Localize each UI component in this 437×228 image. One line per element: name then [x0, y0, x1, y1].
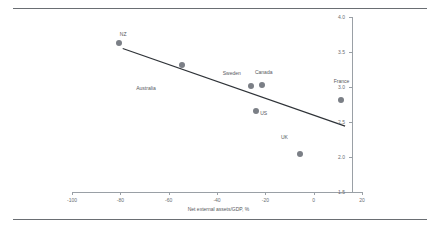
data-point [248, 83, 254, 89]
data-point [253, 108, 259, 114]
y-axis-line [352, 17, 353, 193]
x-tick-label: -20 [262, 197, 269, 203]
x-tick-label: 20 [359, 197, 365, 203]
y-tick [349, 192, 353, 193]
trendline-layer [0, 0, 437, 228]
y-tick-label: 3.5 [338, 49, 345, 55]
figure: -100-80-60-40-20020 1.52.02.53.03.54.0 N… [0, 0, 437, 228]
y-tick-label: 3.0 [338, 84, 345, 90]
y-tick [349, 52, 353, 53]
data-point [297, 151, 303, 157]
y-tick-label: 4.0 [338, 14, 345, 20]
y-tick-label: 2.5 [338, 119, 345, 125]
x-tick [265, 192, 266, 195]
data-point [338, 97, 344, 103]
x-tick-label: -80 [117, 197, 124, 203]
data-point [179, 62, 185, 68]
x-tick [314, 192, 315, 195]
data-point-label: US [260, 110, 267, 116]
data-point-label: France [334, 78, 350, 84]
x-tick-label: -40 [213, 197, 220, 203]
data-point [259, 82, 265, 88]
top-divider-rule [13, 8, 427, 9]
trendline [123, 49, 345, 127]
y-tick [349, 122, 353, 123]
data-point [116, 40, 122, 46]
x-axis-title: Net external assets/GDP, % [0, 206, 437, 212]
data-point-label: NZ [120, 31, 127, 37]
y-tick-label: 1.5 [338, 189, 345, 195]
y-tick [349, 87, 353, 88]
data-point-label: Canada [255, 69, 273, 75]
x-tick-label: -100 [67, 197, 77, 203]
y-tick [349, 17, 353, 18]
data-point-label: Australia [136, 85, 155, 91]
data-point-label: Sweden [223, 70, 241, 76]
x-tick-label: -60 [165, 197, 172, 203]
x-tick-label: 0 [312, 197, 315, 203]
x-tick [72, 192, 73, 195]
bottom-divider-rule [13, 219, 427, 220]
y-tick-label: 2.0 [338, 154, 345, 160]
x-tick [217, 192, 218, 195]
x-tick [169, 192, 170, 195]
data-point-label: UK [281, 134, 288, 140]
x-tick [120, 192, 121, 195]
y-tick [349, 157, 353, 158]
x-tick [362, 192, 363, 195]
